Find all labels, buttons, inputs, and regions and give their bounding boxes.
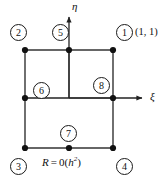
node-label-3: 3 [10, 158, 27, 175]
node-label-7: 7 [60, 125, 77, 142]
node-dot-2 [22, 47, 28, 53]
residual-order-annotation: R=0(h2) [42, 155, 81, 168]
node-dot-6 [22, 95, 28, 101]
node-dot-7 [66, 145, 72, 151]
element-diagram-figure: 2 5 1 8 6 7 3 4 η ξ (1, 1) R=0(h2) [0, 0, 163, 183]
node-dot-4 [110, 145, 116, 151]
node-dot-3 [22, 145, 28, 151]
node-label-5: 5 [52, 24, 69, 41]
corner-coordinate-label: (1, 1) [135, 26, 158, 37]
residual-symbol: R [42, 156, 49, 168]
node-label-6: 6 [33, 82, 50, 99]
residual-equals: = [49, 156, 59, 168]
node-dot-1 [110, 47, 116, 53]
node-dot-8 [110, 95, 116, 101]
eta-axis-label: η [72, 0, 77, 12]
node-label-4: 4 [116, 158, 133, 175]
node-label-1: 1 [116, 24, 133, 41]
xi-axis-label: ξ [150, 90, 155, 102]
node-dot-5 [66, 47, 72, 53]
residual-close-paren: ) [77, 156, 81, 168]
node-label-8: 8 [93, 77, 110, 94]
node-label-2: 2 [10, 24, 27, 41]
